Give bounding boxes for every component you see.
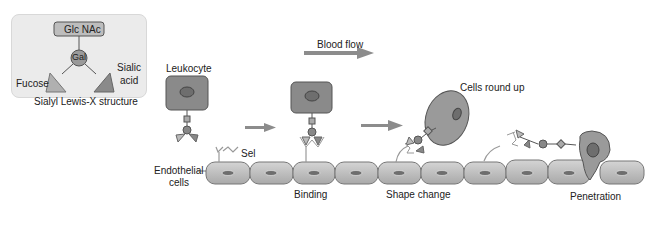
endothelial-label: Endothelial (154, 165, 203, 176)
step-arrow-2-icon (361, 120, 403, 131)
glcnac-label: Glc NAc (64, 24, 101, 35)
penetration-label: Penetration (570, 191, 621, 202)
acid-label: acid (120, 75, 138, 86)
selectin-label: Sel (241, 148, 255, 159)
sialic-label: Sialic (117, 62, 141, 73)
leukocyte-label: Leukocyte (166, 63, 212, 74)
leukocyte-cell-2 (291, 82, 332, 162)
fucose-triangle (46, 73, 66, 92)
endothelial-cells-label: cells (169, 177, 189, 188)
shape-change-label: Shape change (386, 189, 451, 200)
leukocyte-cell-1 (166, 76, 208, 142)
selectin-icon (216, 147, 238, 162)
endothelial-cell-row (206, 160, 644, 184)
leukocyte-cell-3 (396, 85, 476, 162)
gal-label: Gal (72, 53, 86, 63)
fucose-label: Fucose (16, 78, 49, 89)
blood-flow-label: Blood flow (317, 39, 363, 50)
sialyl-lewis-x-caption: Sialyl Lewis-X structure (34, 96, 138, 107)
binding-label: Binding (294, 189, 327, 200)
step-arrow-1-icon (245, 123, 276, 132)
sialic-acid-triangle (94, 73, 114, 92)
cells-round-up-label: Cells round up (460, 82, 524, 93)
